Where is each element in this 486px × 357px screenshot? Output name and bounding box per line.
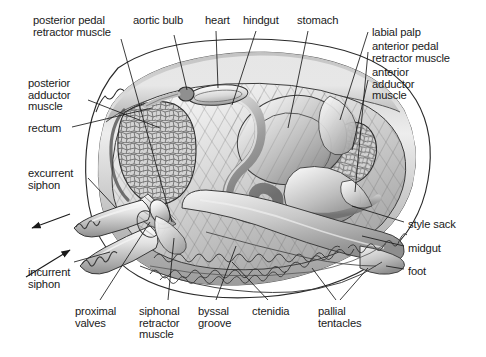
label-ctenidia: ctenidia [252, 306, 289, 318]
label-pallial-tentacles: pallial tentacles [318, 306, 361, 329]
label-proximal-valves: proximal valves [75, 306, 116, 329]
label-stomach: stomach [297, 15, 338, 27]
label-incurrent-siphon: incurrent siphon [28, 267, 70, 290]
label-foot: foot [408, 266, 426, 278]
label-hindgut: hindgut [243, 15, 279, 27]
label-labial-palp: labial palp [372, 27, 421, 39]
label-style-sack: style sack [408, 219, 456, 231]
label-posterior-adductor-muscle: posterior adductor muscle [28, 78, 70, 113]
label-aortic-bulb: aortic bulb [133, 15, 183, 27]
label-midgut: midgut [408, 243, 441, 255]
anatomy-figure: posterior pedal retractor muscleaortic b… [0, 0, 486, 357]
label-rectum: rectum [28, 123, 61, 135]
excurrent-flow-arrow [32, 214, 70, 228]
label-posterior-pedal-retractor-muscle: posterior pedal retractor muscle [33, 15, 111, 38]
label-anterior-adductor-muscle: anterior adductor muscle [372, 67, 414, 102]
label-excurrent-siphon: excurrent siphon [28, 168, 73, 191]
label-siphonal-retractor-muscle: siphonal retractor muscle [139, 306, 179, 341]
label-byssal-groove: byssal groove [198, 306, 231, 329]
label-heart: heart [205, 15, 230, 27]
label-anterior-pedal-retractor-muscle: anterior pedal retractor muscle [372, 41, 450, 64]
